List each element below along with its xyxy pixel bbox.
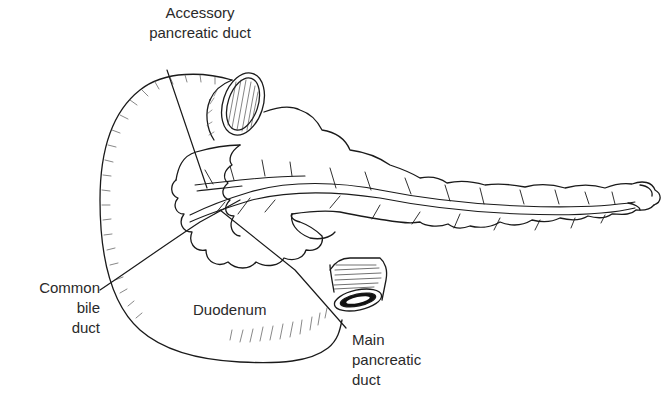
label-duodenum: Duodenum — [193, 300, 266, 320]
label-common-line1: Common — [20, 278, 100, 298]
pancreas-outline — [264, 107, 660, 205]
pancreas-diagram — [0, 0, 663, 408]
label-main-line3: duct — [352, 370, 421, 390]
pylorus-opening — [214, 67, 272, 140]
label-duodenum-text: Duodenum — [193, 300, 266, 320]
leader-accessory — [167, 70, 207, 188]
label-common-bile-duct: Common bile duct — [20, 278, 100, 338]
leader-common-bile — [100, 200, 240, 290]
label-common-line2: bile — [20, 298, 100, 318]
label-accessory-pancreatic-duct: Accessory pancreatic duct — [135, 3, 265, 43]
label-main-pancreatic-duct: Main pancreatic duct — [352, 330, 421, 390]
label-accessory-line2: pancreatic duct — [135, 23, 265, 43]
label-main-line1: Main — [352, 330, 421, 350]
label-main-line2: pancreatic — [352, 350, 421, 370]
label-accessory-line1: Accessory — [135, 3, 265, 23]
label-common-line3: duct — [20, 318, 100, 338]
